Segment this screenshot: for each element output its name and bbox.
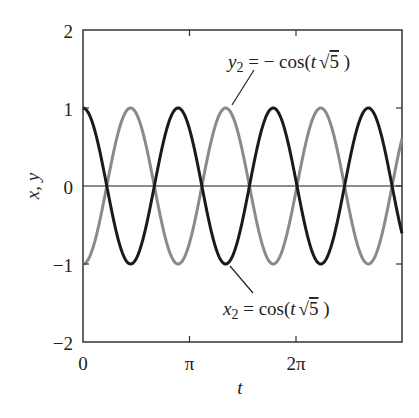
y-tick-labels: 2 1 0 −1 −2 (53, 21, 73, 354)
y2-five: 5 (330, 51, 340, 72)
x2-sub: 2 (231, 307, 238, 322)
x-axis-label: t (237, 377, 243, 398)
y2-t: t (311, 51, 317, 72)
y-tick-neg2: −2 (53, 333, 73, 354)
x2-rhs: = cos( (238, 298, 290, 320)
y2-leader-line (232, 70, 254, 105)
y2-sqrt: √ (319, 51, 330, 72)
x-tick-labels: 0 π 2π (78, 353, 306, 374)
x2-close: ) (319, 298, 330, 320)
y2-annotation: y2 = − cos(t√5 ) (226, 51, 350, 75)
y2-sub: 2 (236, 60, 243, 75)
x2-sqrt: √ (299, 298, 310, 319)
x2-t: t (290, 298, 296, 319)
y2-close: ) (339, 51, 350, 73)
x-tick-0: 0 (78, 353, 88, 374)
y-tick-0: 0 (64, 177, 74, 198)
y-tick-neg1: −1 (53, 255, 73, 276)
x-tick-2pi: 2π (286, 353, 306, 374)
y2-var: y (226, 51, 237, 72)
y-tick-2: 2 (64, 21, 74, 42)
x-tick-pi: π (185, 353, 195, 374)
y-axis-label: x, y (22, 172, 43, 200)
x2-five: 5 (309, 298, 319, 319)
y-tick-1: 1 (64, 99, 74, 120)
x2-leader-line (230, 266, 253, 293)
y2-rhs: = − cos( (243, 51, 310, 73)
chart: 2 1 0 −1 −2 0 π 2π t x, y y2 = − cos(t√5… (0, 0, 419, 418)
x2-annotation: x2 = cos(t√5 ) (222, 298, 330, 322)
